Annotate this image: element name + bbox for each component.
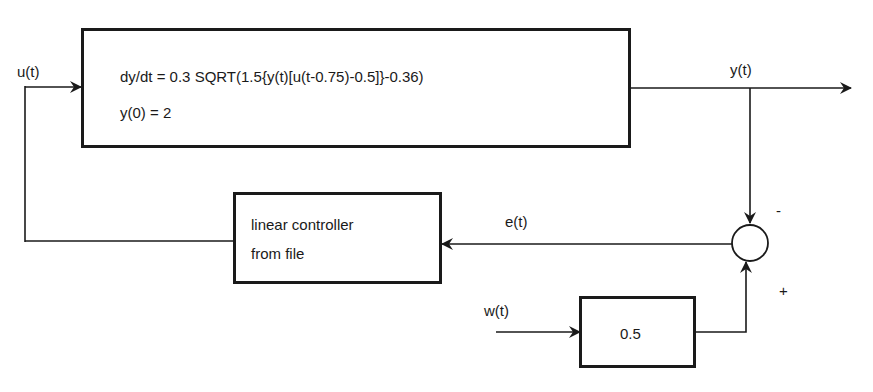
junction-plus-sign: + [779, 283, 788, 298]
gain-to-junction [695, 262, 746, 332]
signal-label-y: y(t) [730, 62, 752, 77]
gain-block: 0.5 [579, 296, 696, 368]
block-diagram: dy/dt = 0.3 SQRT(1.5{y(t)[u(t-0.75)-0.5]… [0, 0, 873, 392]
summing-junction [732, 225, 768, 261]
plant-initial-condition: y(0) = 2 [120, 105, 171, 120]
signal-label-w: w(t) [484, 303, 509, 318]
controller-label-line1: linear controller [251, 217, 354, 232]
plant-equation: dy/dt = 0.3 SQRT(1.5{y(t)[u(t-0.75)-0.5]… [120, 69, 424, 84]
signal-label-u: u(t) [17, 64, 40, 79]
controller-label-line2: from file [251, 246, 304, 261]
signal-label-e: e(t) [505, 214, 528, 229]
plant-block: dy/dt = 0.3 SQRT(1.5{y(t)[u(t-0.75)-0.5]… [81, 28, 631, 148]
controller-block: linear controller from file [233, 192, 442, 284]
gain-value: 0.5 [620, 326, 641, 341]
junction-minus-sign: - [776, 203, 781, 218]
